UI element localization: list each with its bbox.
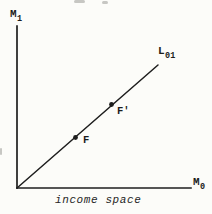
y-axis-label-subscript: 1 [17,14,22,24]
x-axis-label-letter: M [193,176,200,188]
diagram-canvas [0,0,212,214]
scan-artifact [102,1,108,4]
income-space-diagram: M1 L01 M0 F F' income space [0,0,212,214]
point-F-prime-label: F' [117,106,130,117]
scan-artifact [74,0,85,3]
scan-artifact [0,148,2,155]
diagram-caption: income space [55,194,141,206]
point-F-label: F [83,135,89,146]
point-F-dot [73,135,78,140]
ray-label-subscript: 01 [165,51,175,61]
ray-label-letter: L [158,45,165,57]
y-axis-label-letter: M [10,8,17,20]
point-F-prime-dot [109,102,114,107]
ray-label: L01 [158,46,175,57]
ray-line-L01 [17,65,158,188]
y-axis-label: M1 [10,9,22,20]
x-axis-label-subscript: 0 [200,182,205,192]
x-axis-label: M0 [193,177,205,188]
